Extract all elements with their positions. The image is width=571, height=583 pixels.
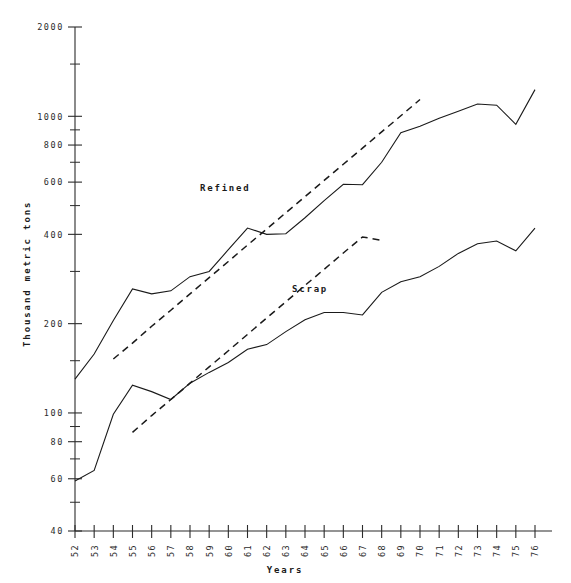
x-tick-label: 76 [530,544,540,557]
x-tick-label: 66 [339,544,349,557]
y-tick-label: 200 [44,319,64,329]
x-tick-label: 59 [205,544,215,557]
x-axis-title: Years [267,565,304,575]
x-tick-label: 64 [300,544,310,557]
x-tick-label: 58 [185,544,195,557]
series-refined [75,90,535,380]
x-tick-label: 56 [147,544,157,557]
y-axis-title: Thousand metric tons [22,201,32,347]
x-tick-label: 52 [70,544,80,557]
y-tick-label: 80 [51,437,64,447]
x-tick-label: 54 [109,544,119,557]
y-tick-label: 400 [44,230,64,240]
chart-canvas: 20001000800600400200100806040 5253545556… [0,0,571,583]
x-tick-label: 55 [128,544,138,557]
series-scrap [75,228,535,481]
x-tick-label: 60 [224,544,234,557]
axis-lines [75,27,552,531]
x-tick-label: 75 [511,544,521,557]
y-tick-label: 60 [51,474,64,484]
x-tick-label: 74 [492,544,502,557]
x-tick-label: 57 [166,544,176,557]
series-refined-trend [113,100,420,359]
y-tick-label: 800 [44,140,64,150]
x-tick-label: 53 [90,544,100,557]
x-tick-label: 62 [262,544,272,557]
x-tick-label: 73 [473,544,483,557]
log-line-chart: 20001000800600400200100806040 5253545556… [0,0,571,583]
x-tick-label: 70 [415,544,425,557]
x-tick-label: 65 [320,544,330,557]
y-tick-label: 2000 [37,22,64,32]
series-annotation-refined: Refined [200,183,251,193]
x-tick-label: 63 [281,544,291,557]
x-axis-tick-labels: 5253545556575859606162636465666768697071… [70,544,540,557]
y-tick-label: 600 [44,177,64,187]
x-tick-label: 61 [243,544,253,557]
x-tick-label: 68 [377,544,387,557]
x-tick-label: 69 [396,544,406,557]
y-tick-label: 1000 [37,112,64,122]
series-scrap-trend [133,237,382,432]
y-tick-label: 100 [44,408,64,418]
x-tick-label: 71 [435,544,445,557]
series-annotation-scrap: Scrap [292,284,328,294]
y-axis-tick-labels: 20001000800600400200100806040 [37,22,64,536]
y-tick-label: 40 [51,526,64,536]
x-tick-label: 67 [358,544,368,557]
x-tick-label: 72 [454,544,464,557]
